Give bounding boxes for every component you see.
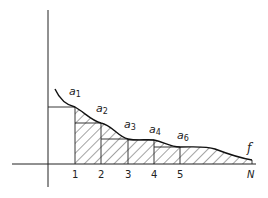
tick-label-5: 5 <box>177 170 183 180</box>
tick-label-2: 2 <box>98 170 104 180</box>
diagram: a1 a2 a3 a4 a6 f 1 2 3 4 5 N <box>0 0 268 198</box>
point-label-a3: a3 <box>124 119 136 132</box>
point-label-a6: a6 <box>177 130 189 143</box>
tick-label-1: 1 <box>72 170 78 180</box>
point-label-a2: a2 <box>96 103 108 116</box>
tick-label-N: N <box>247 170 254 180</box>
tick-label-4: 4 <box>151 170 157 180</box>
curve-label-f: f <box>247 142 251 154</box>
diagram-canvas <box>0 0 268 198</box>
point-label-a4: a4 <box>149 124 161 137</box>
tick-label-3: 3 <box>125 170 131 180</box>
point-label-a1: a1 <box>69 86 81 99</box>
